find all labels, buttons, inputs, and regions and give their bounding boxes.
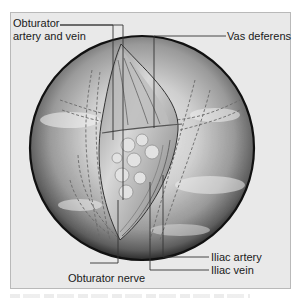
label-iliac-artery: Iliac artery	[211, 251, 262, 264]
label-iliac-vein: Iliac vein	[211, 264, 254, 277]
label-obturator-artery-vein: Obturator artery and vein	[13, 17, 86, 43]
cropped-caption-remnant	[10, 294, 250, 298]
label-vas-deferens: Vas deferens	[227, 30, 291, 43]
label-obturator-nerve: Obturator nerve	[68, 272, 145, 285]
